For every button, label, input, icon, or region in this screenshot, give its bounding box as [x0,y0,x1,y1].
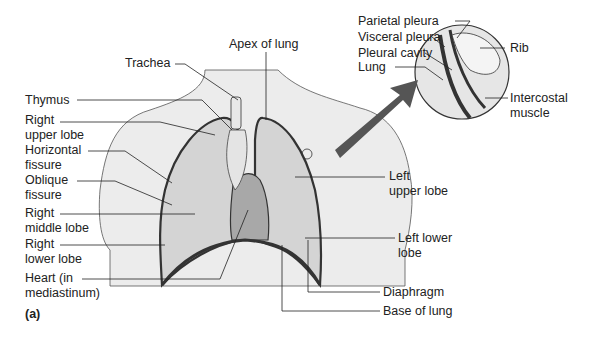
label-diaphragm: Diaphragm [383,285,444,300]
label-line: muscle [510,106,550,120]
label-line: Right [25,206,54,220]
label-trachea: Trachea [125,56,170,71]
label-line: Left lower [398,231,452,245]
label-line: upper lobe [389,184,448,198]
label-line: Heart (in [25,271,73,285]
label-line: Horizontal [25,143,81,157]
label-line: lobe [398,246,422,260]
label-right-middle-lobe: Rightmiddle lobe [25,206,89,236]
trachea-shape [231,97,241,129]
label-line: Right [25,237,54,251]
label-thymus: Thymus [25,93,69,108]
label-line: middle lobe [25,221,89,235]
label-left-upper-lobe: Leftupper lobe [389,169,448,199]
label-apex-of-lung: Apex of lung [229,37,299,52]
label-line: Oblique [25,173,68,187]
label-heart: Heart (inmediastinum) [25,271,100,301]
label-line: fissure [25,158,62,172]
label-oblique-fissure: Obliquefissure [25,173,68,203]
label-parietal-pleura: Parietal pleura [358,14,439,29]
label-base-of-lung: Base of lung [383,304,453,319]
label-line: upper lobe [25,128,84,142]
label-line: Intercostal [510,91,568,105]
label-left-lower-lobe: Left lowerlobe [398,231,452,261]
label-lung: Lung [358,60,386,75]
label-line: mediastinum) [25,286,100,300]
label-intercostal-muscle: Intercostalmuscle [510,91,568,121]
panel-label: (a) [25,307,40,322]
label-line: Left [389,169,410,183]
label-line: Right [25,113,54,127]
label-right-lower-lobe: Rightlower lobe [25,237,82,267]
label-visceral-pleura: Visceral pleura [358,30,440,45]
label-line: lower lobe [25,252,82,266]
label-horizontal-fissure: Horizontalfissure [25,143,81,173]
label-line: fissure [25,188,62,202]
label-pleural-cavity: Pleural cavity [358,46,432,61]
label-rib: Rib [510,41,529,56]
label-right-upper-lobe: Rightupper lobe [25,113,84,143]
